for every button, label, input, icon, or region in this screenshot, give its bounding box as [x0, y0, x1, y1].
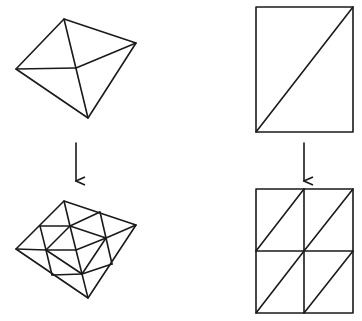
coarse-rect-mesh	[256, 7, 353, 132]
diagram-canvas: Mesh refinement: coarse triangulations (…	[0, 0, 362, 321]
coarse-quad-mesh	[16, 19, 136, 118]
refined-rect-mesh	[256, 189, 353, 313]
refined-quad-mesh	[16, 201, 136, 298]
